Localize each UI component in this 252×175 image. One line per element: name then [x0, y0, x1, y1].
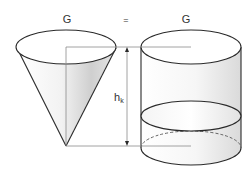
cone-cylinder-diagram: G = G hk — [0, 0, 252, 175]
equals-sign: = — [123, 15, 128, 25]
left-g-label: G — [63, 13, 72, 25]
arrow-up-icon — [125, 47, 129, 52]
height-arrow — [125, 47, 129, 146]
right-g-label: G — [182, 13, 191, 25]
height-label: hk — [114, 91, 124, 104]
arrow-down-icon — [125, 141, 129, 146]
cone-shape — [16, 30, 116, 146]
cylinder-fill-level-ellipse — [141, 101, 241, 131]
height-label-subscript: k — [120, 97, 124, 104]
cylinder-shape — [141, 30, 241, 165]
